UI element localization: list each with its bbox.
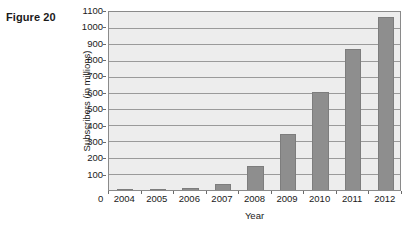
y-axis-tick [103,93,106,94]
bar [215,184,231,190]
x-axis: 0 200420052006200720082009201020112012 [108,191,401,207]
y-axis-tick-label: 1100 [83,6,103,16]
x-axis-tick [108,191,109,194]
bar [312,92,328,190]
bar [117,189,133,190]
x-axis-tick-label: 2006 [179,194,200,204]
x-axis-tick-label: 2007 [211,194,232,204]
plot-area [108,11,401,191]
y-axis-tick [103,44,106,45]
y-axis-tick [103,158,106,159]
x-axis-title: Year [108,210,401,221]
x-axis-tick-label: 2009 [276,194,297,204]
x-axis-tick [401,191,402,194]
y-axis-tick [103,76,106,77]
bar-series [109,12,400,190]
figure-container: Figure 20 100200300400500600700800900100… [0,0,414,235]
y-axis-tick-label: 200 [87,154,103,164]
y-axis-tick [103,142,106,143]
x-axis-tick-label: 2004 [114,194,135,204]
x-axis-origin-label: 0 [98,194,103,204]
y-axis-tick-label: 1000 [82,23,103,33]
x-axis-tick [141,191,142,194]
y-axis-tick-label: 100 [87,170,103,180]
x-axis-tick-label: 2011 [342,194,362,204]
bar [280,134,296,190]
x-axis-tick-label: 2005 [146,194,167,204]
y-axis-tick [103,175,106,176]
y-axis-tick [103,109,106,110]
x-axis-tick [368,191,369,194]
bar [378,17,394,190]
y-axis-tick [103,27,106,28]
x-axis-tick-label: 2010 [309,194,330,204]
y-axis-tick [103,11,106,12]
x-axis-tick-label: 2012 [374,194,395,204]
x-axis-tick [173,191,174,194]
x-axis-tick [271,191,272,194]
x-axis-tick [303,191,304,194]
bar [247,166,263,190]
bar [182,188,198,190]
figure-label: Figure 20 [6,11,56,23]
y-axis-tick-label: 900 [87,39,103,49]
y-axis-tick [103,126,106,127]
bar [345,49,361,190]
bar [150,189,166,190]
x-axis-tick-label: 2008 [244,194,265,204]
x-axis-tick [336,191,337,194]
x-axis-tick [238,191,239,194]
bar-chart: 10020030040050060070080090010001100 Subs… [108,11,401,191]
y-axis-tick [103,60,106,61]
y-axis-title: Subscribers (in millions) [81,51,92,152]
x-axis-tick [206,191,207,194]
